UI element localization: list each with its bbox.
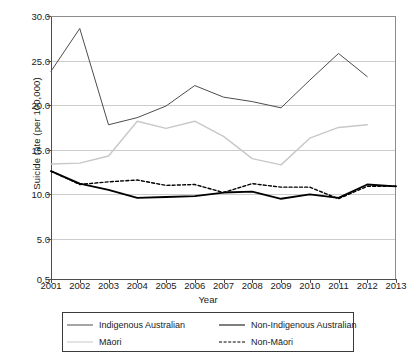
x-tick-label: 2001 [40,280,61,291]
chart-legend: Indigenous Australian Non-Indigenous Aus… [62,312,354,352]
x-tick-label: 2010 [299,280,320,291]
x-axis-tick-labels: 2001200220032004200520062007200820092010… [0,280,416,294]
legend-entry-maori: Māori [67,333,219,350]
plot-area [0,0,416,360]
x-tick-label: 2007 [213,280,234,291]
y-axis-tick-marks [47,17,51,280]
series-line-m-ori [51,121,367,165]
data-series-group [51,28,396,198]
x-tick-label: 2006 [184,280,205,291]
x-tick-label: 2011 [328,280,348,291]
legend-row: Indigenous Australian Non-Indigenous Aus… [67,316,349,333]
x-axis-title: Year [0,294,416,305]
x-tick-label: 2004 [127,280,148,291]
legend-swatch-line-icon [219,320,245,330]
series-line-indigenous-australian [51,28,367,124]
legend-row: Māori Non-Māori [67,333,349,350]
x-tick-label: 2013 [385,280,406,291]
legend-label: Māori [99,337,122,347]
legend-swatch-line-icon [67,320,93,330]
gridlines [51,17,396,240]
x-tick-label: 2005 [155,280,176,291]
legend-label: Non-Māori [251,337,293,347]
x-tick-label: 2003 [98,280,119,291]
x-tick-label: 2002 [69,280,90,291]
x-tick-label: 2012 [357,280,378,291]
legend-entry-non-maori: Non-Māori [219,333,349,350]
legend-label: Indigenous Australian [99,320,185,330]
legend-entry-indigenous-australian: Indigenous Australian [67,316,219,333]
x-tick-label: 2008 [242,280,263,291]
suicide-rate-line-chart: Suicide rate (per 100,000) 30.025.020.01… [0,0,416,360]
legend-label: Non-Indigenous Australian [251,320,357,330]
legend-swatch-dashed-line-icon [219,337,245,347]
x-tick-label: 2009 [270,280,291,291]
legend-entry-non-indigenous-australian: Non-Indigenous Australian [219,316,349,333]
legend-swatch-line-icon [67,337,93,347]
